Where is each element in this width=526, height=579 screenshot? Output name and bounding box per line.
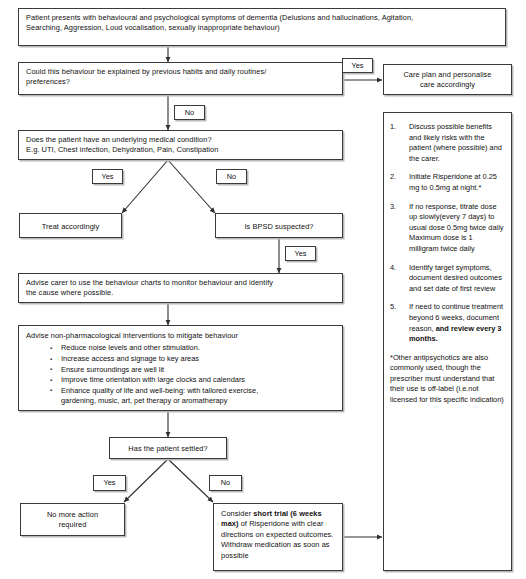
node-no-more-action-text: No more action required [21,504,124,531]
edge-label-habits-no: No [174,105,205,120]
step-text: Discuss possible benefits and likely ris… [409,122,502,163]
node-treat-accordingly: Treat accordingly [19,213,122,238]
node-bpsd-question-text: Is BPSD suspected? [216,214,342,232]
short-trial-prefix: Consider [221,509,253,518]
list-item-line2: gardening, music, art, pet therapy or ar… [61,396,342,407]
node-medical-condition-text: Does the patient have an underlying medi… [19,131,342,159]
node-patient-presentation: Patient presents with behavioural and ps… [18,8,506,46]
edge-label-medical-no-text: No [227,173,236,180]
node-short-trial-text: Consider short trial (6 weeks max) of Ri… [214,504,342,561]
step-number: 2. [390,172,396,183]
step-number: 1. [390,122,396,133]
edge-label-settled-yes: Yes [93,475,126,491]
edge-label-habits-yes: Yes [342,58,373,73]
node-non-pharmacological: Advise non-pharmacological interventions… [18,325,343,411]
step-number: 3. [390,202,396,213]
step-number: 4. [390,263,396,274]
edge-label-medical-yes-text: Yes [101,173,113,180]
list-item: Improve time orientation with large cloc… [61,375,342,386]
node-patient-presentation-text: Patient presents with behavioural and ps… [19,9,505,37]
side-panel-footnote: *Other antipsychotics are also commonly … [388,353,504,406]
node-care-plan-text: Care plan and personalise care according… [384,65,511,91]
node-short-trial: Consider short trial (6 weeks max) of Ri… [213,503,343,571]
node-no-more-action: No more action required [20,503,125,536]
step-text: Identify target symptoms, document desir… [409,263,502,293]
edge-label-medical-no: No [216,169,247,184]
list-item: 1. Discuss possible benefits and likely … [388,122,504,164]
edge-label-medical-yes: Yes [92,169,123,184]
edge-label-habits-yes-text: Yes [351,62,363,69]
prescribing-steps-list: 1. Discuss possible benefits and likely … [388,122,504,345]
edge-label-settled-no: No [209,475,242,491]
side-panel-prescribing-guidance: 1. Discuss possible benefits and likely … [383,112,512,571]
non-pharmacological-bullet-list: Reduce noise levels and other stimulatio… [19,343,342,407]
edge-label-habits-no-text: No [185,109,194,116]
list-item-line1: Enhance quality of life and well-being: … [61,386,258,395]
node-medical-condition: Does the patient have an underlying medi… [18,130,343,160]
list-item: Increase access and signage to key areas [61,354,342,365]
edge-label-bpsd-yes: Yes [285,246,316,261]
flowchart-canvas: Patient presents with behavioural and ps… [0,0,526,579]
node-non-pharmacological-heading: Advise non-pharmacological interventions… [19,326,342,343]
edge-label-bpsd-yes-text: Yes [294,250,306,257]
node-settled-question-text: Has the patient settled? [110,438,226,454]
step-text: If no response, titrate dose up slowly(e… [409,202,504,253]
list-item: 2. Initiate Risperidone at 0.25 mg to 0.… [388,172,504,193]
step-text: Initiate Risperidone at 0.25 mg to 0.5mg… [409,172,497,192]
node-habits-question: Could this behaviour be explained by pre… [18,62,343,95]
node-behaviour-charts: Advise carer to use the behaviour charts… [18,273,343,303]
list-item: 4. Identify target symptoms, document de… [388,263,504,295]
node-care-plan: Care plan and personalise care according… [383,64,512,95]
node-bpsd-question: Is BPSD suspected? [215,213,343,238]
list-item: 5. If need to continue treatment beyond … [388,302,504,344]
list-item: Enhance quality of life and well-being: … [61,386,342,407]
node-behaviour-charts-text: Advise carer to use the behaviour charts… [19,274,342,302]
step-number: 5. [390,302,396,313]
node-settled-question: Has the patient settled? [109,437,227,459]
list-item: 3. If no response, titrate dose up slowl… [388,202,504,255]
node-treat-accordingly-text: Treat accordingly [20,214,121,232]
edge-label-settled-yes-text: Yes [103,479,115,486]
short-trial-suffix: of Risperidone with clear directions on … [221,519,333,559]
list-item: Reduce noise levels and other stimulatio… [61,343,342,354]
list-item: Ensure surroundings are well lit [61,365,342,376]
edge-label-settled-no-text: No [221,479,230,486]
node-habits-question-text: Could this behaviour be explained by pre… [19,63,342,91]
